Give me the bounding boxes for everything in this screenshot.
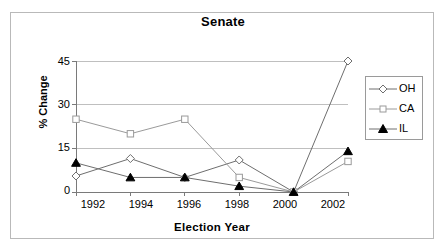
marker-ca-1996 [182,116,188,122]
axis-ticks [72,61,348,196]
axis-lines [76,61,348,192]
marker-ca-1992 [73,116,79,122]
marker-il-1992 [72,159,81,167]
legend-entry-ca[interactable]: CA [366,99,424,119]
marker-ca-1998 [236,174,242,180]
marker-oh-2002 [344,57,352,65]
series-line-ca [76,119,348,192]
marker-ca-2002 [345,158,351,164]
legend-label-oh: OH [399,82,416,94]
marker-oh-1992 [72,172,80,180]
series-line-oh [76,61,348,192]
legend-swatch-oh [368,79,398,99]
legend-entry-il[interactable]: IL [366,119,424,139]
legend-entry-oh[interactable]: OH [366,79,424,99]
legend-label-ca: CA [399,102,414,114]
legend-swatch-ca [368,99,398,119]
series-lines [76,61,348,192]
chart-figure: Senate % Change Election Year 45 30 15 0… [0,0,446,252]
marker-ca-1994 [127,131,133,137]
gridlines [76,61,348,148]
legend-label-il: IL [399,122,408,134]
chart-legend: OH CA IL [365,76,423,140]
series-markers [72,57,353,196]
series-line-il [76,151,348,192]
marker-oh-1998 [235,156,243,164]
marker-oh-1994 [126,155,134,163]
legend-swatch-il [368,119,398,139]
